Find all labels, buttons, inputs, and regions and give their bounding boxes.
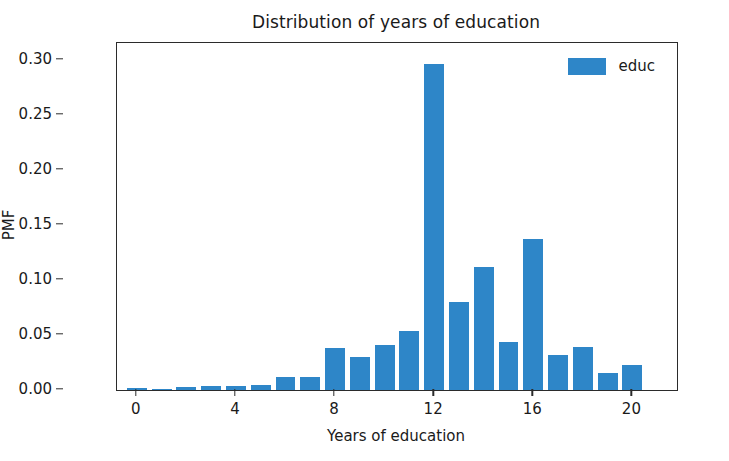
bar — [325, 348, 345, 390]
bar — [474, 267, 494, 390]
chart-title: Distribution of years of education — [116, 12, 676, 32]
x-tick-mark — [333, 389, 334, 396]
bar — [424, 64, 444, 390]
x-tick-mark — [532, 389, 533, 396]
y-tick-mark — [56, 223, 63, 224]
y-tick-mark — [56, 168, 63, 169]
y-tick-label: 0.05 — [19, 325, 52, 343]
y-tick-label: 0.20 — [19, 160, 52, 178]
x-tick-mark — [631, 389, 632, 396]
y-axis: PMF 0.000.050.100.150.200.250.30 — [0, 0, 116, 461]
x-axis: Years of education 048121620 — [116, 389, 676, 461]
y-tick-label: 0.10 — [19, 270, 52, 288]
y-tick-label: 0.25 — [19, 105, 52, 123]
x-tick-label: 0 — [131, 400, 141, 418]
y-axis-label: PMF — [0, 210, 18, 241]
x-axis-label: Years of education — [116, 427, 676, 445]
y-tick-mark — [56, 278, 63, 279]
bar — [375, 345, 395, 390]
bar — [573, 347, 593, 390]
y-tick-label: 0.00 — [19, 380, 52, 398]
x-tick-label: 20 — [622, 400, 641, 418]
bar — [523, 239, 543, 390]
chart-figure: Distribution of years of education PMF 0… — [0, 0, 729, 461]
x-tick-label: 16 — [523, 400, 542, 418]
x-tick-label: 12 — [424, 400, 443, 418]
y-tick-mark — [56, 58, 63, 59]
bar — [449, 302, 469, 390]
x-tick-mark — [135, 389, 136, 396]
legend-swatch-educ — [568, 58, 606, 75]
legend-label-educ: educ — [618, 57, 655, 75]
x-tick-mark — [234, 389, 235, 396]
y-tick-label: 0.15 — [19, 215, 52, 233]
y-tick-mark — [56, 113, 63, 114]
bar — [399, 331, 419, 390]
bar — [350, 357, 370, 390]
bar — [499, 342, 519, 390]
bars-layer — [117, 43, 677, 390]
x-tick-mark — [432, 389, 433, 396]
plot-area: educ — [116, 42, 678, 391]
bar — [622, 365, 642, 390]
x-tick-label: 4 — [230, 400, 240, 418]
x-tick-label: 8 — [329, 400, 339, 418]
y-tick-mark — [56, 388, 63, 389]
chart-legend: educ — [568, 57, 655, 75]
bar — [548, 355, 568, 390]
bar — [598, 373, 618, 390]
y-tick-label: 0.30 — [19, 50, 52, 68]
y-tick-mark — [56, 333, 63, 334]
